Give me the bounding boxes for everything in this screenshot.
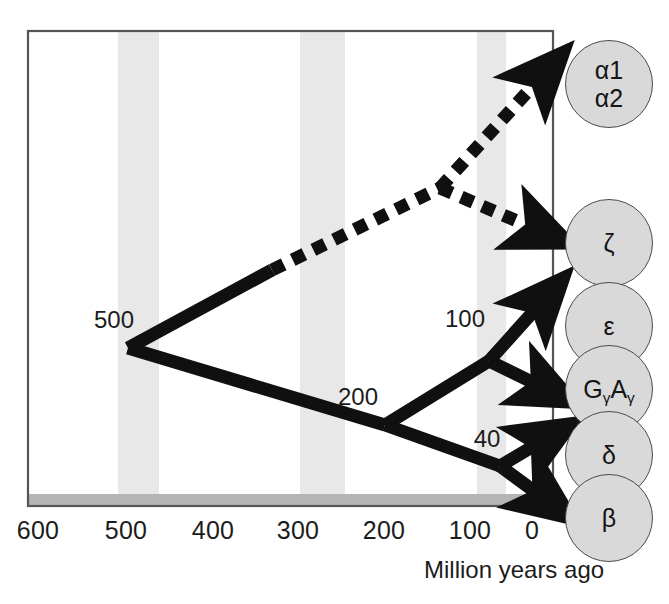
gene-label-gamma-sub1: γ: [603, 389, 611, 406]
globin-evolution-figure: 500 200 100 40 600 500 400 300 200 100 0…: [0, 0, 669, 604]
gene-label-beta: β: [602, 504, 616, 532]
x-tick-200: 200: [354, 518, 414, 543]
x-tick-0: 0: [511, 518, 553, 543]
x-tick-600: 600: [8, 518, 68, 543]
gene-label-gamma-A: A: [610, 375, 627, 403]
x-tick-500: 500: [96, 518, 156, 543]
node-label-500: 500: [86, 308, 142, 332]
gene-label-alpha1: α1: [595, 56, 623, 84]
x-tick-300: 300: [268, 518, 328, 543]
shaded-band-1: [118, 32, 159, 505]
x-tick-100: 100: [440, 518, 500, 543]
gene-label-zeta: ζ: [603, 229, 614, 257]
node-label-200: 200: [330, 385, 386, 409]
gene-label-alpha2: α2: [595, 84, 623, 112]
gene-label-delta: δ: [602, 441, 616, 469]
x-axis-caption: Million years ago: [424, 558, 604, 582]
gene-label-gamma: GγAγ: [583, 375, 635, 403]
node-label-40: 40: [466, 427, 508, 451]
floor-bar: [29, 494, 552, 506]
shaded-band-2: [300, 32, 345, 505]
node-label-100: 100: [437, 307, 493, 331]
gene-label-gamma-sub2: γ: [627, 389, 635, 406]
x-tick-400: 400: [183, 518, 243, 543]
gene-label-epsilon: ε: [603, 312, 614, 340]
gene-label-gamma-G: G: [583, 375, 602, 403]
gene-circle-beta: β: [565, 474, 653, 562]
gene-circle-zeta: ζ: [565, 199, 653, 287]
gene-circle-alpha: α1 α2: [565, 40, 653, 128]
